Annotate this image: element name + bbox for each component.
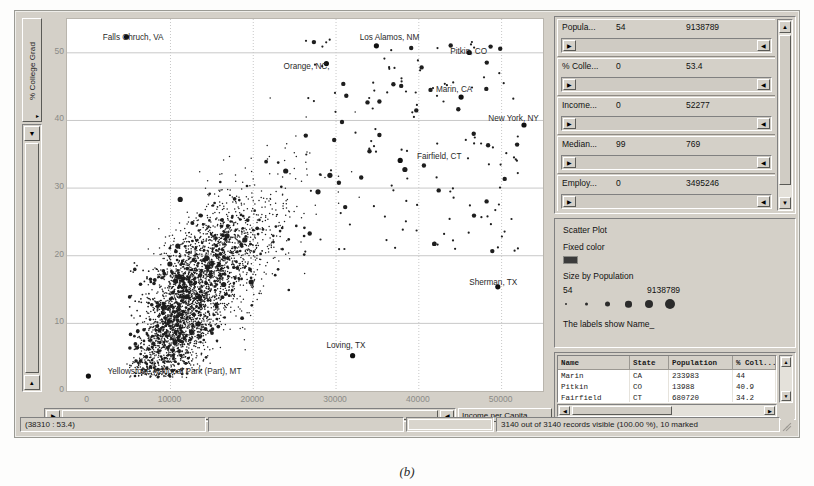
filters-scrollbar[interactable]: ▲ ▼ <box>777 19 793 211</box>
filter-range-slider[interactable]: ▶◀ <box>561 194 772 209</box>
table-cell: Fairfield <box>558 392 629 403</box>
plot-canvas[interactable]: Falls Chruch, VALos Alamos, NMPitkin, CO… <box>66 18 544 392</box>
filter-handle-left-icon[interactable]: ▶ <box>563 118 576 129</box>
table-row[interactable]: MarinCA23398344 <box>558 370 776 382</box>
table-cell: Marin <box>558 370 629 382</box>
legend-title: Scatter Plot <box>563 225 607 235</box>
table-row[interactable]: PitkinCO1398840.9 <box>558 381 776 392</box>
scatter-svg[interactable]: Falls Chruch, VALos Alamos, NMPitkin, CO… <box>67 19 543 391</box>
legend-color-swatch[interactable] <box>563 256 578 264</box>
table-column-header[interactable]: % Coll... <box>733 356 776 370</box>
point-label: Marin, CA <box>436 85 473 94</box>
legend-panel: Scatter Plot Fixed color Size by Populat… <box>554 218 796 348</box>
point-label: Los Alamos, NM <box>360 33 420 42</box>
legend-size-ramp <box>565 297 695 311</box>
table-row[interactable]: FairfieldCT68072034.2 <box>558 392 776 403</box>
filter-handle-right-icon[interactable]: ◀ <box>757 79 770 90</box>
filter-row[interactable]: Employ...03495246▶◀ <box>557 175 775 211</box>
filters-scroll-thumb[interactable] <box>779 35 791 185</box>
status-coordinates: (38310 : 53.4) <box>20 417 206 432</box>
x-axis-tick-labels: 01000020000300004000050000 <box>66 394 544 407</box>
filter-name: Popula... <box>562 22 596 32</box>
x-tick-label: 20000 <box>240 394 264 404</box>
y-tick-label: 10 <box>44 316 64 326</box>
table-cell: CA <box>629 370 668 382</box>
point-label: New York, NY <box>488 114 539 123</box>
filter-range-slider[interactable]: ▶◀ <box>561 77 772 92</box>
details-table-panel: NameStatePopulation% Coll... MarinCA2339… <box>554 352 796 420</box>
table-horizontal-scrollbar[interactable]: ◀ ▶ <box>557 404 777 417</box>
legend-size-min: 54 <box>563 285 572 295</box>
table-body: MarinCA23398344PitkinCO1398840.9Fairfiel… <box>558 370 776 404</box>
resize-grip-icon[interactable] <box>781 417 794 432</box>
table-hscroll-thumb[interactable] <box>572 406 672 415</box>
legend-size-dot <box>665 299 675 309</box>
y-axis-scrollbar[interactable]: ▼ ▴ <box>22 124 42 392</box>
filter-min-value: 0 <box>616 100 621 110</box>
y-axis-label: % College Grad <box>23 19 43 123</box>
progress-fill <box>408 419 492 430</box>
filter-handle-right-icon[interactable]: ◀ <box>757 196 770 207</box>
legend-size-dot <box>645 300 653 308</box>
y-scroll-down-icon[interactable]: ▼ <box>24 126 40 141</box>
filter-row[interactable]: Popula...549138789▶◀ <box>557 19 775 57</box>
filter-row[interactable]: Median...99769▶◀ <box>557 136 775 174</box>
table-scroll-up-icon[interactable]: ▲ <box>781 357 791 367</box>
filter-handle-left-icon[interactable]: ▶ <box>563 157 576 168</box>
application-client-area: % College Grad ▸ ▼ ▴ 01020304050 Falls C… <box>18 14 796 434</box>
filters-scroll-down-icon[interactable]: ▼ <box>779 197 791 209</box>
table-scroll-down-icon[interactable]: ▼ <box>781 391 791 401</box>
filter-name: Income... <box>562 100 597 110</box>
y-scroll-thumb[interactable] <box>25 143 39 373</box>
y-axis-expand-icon[interactable]: ▸ <box>36 113 39 119</box>
table-cell: 13988 <box>668 381 732 392</box>
point-label: Pitkin, CO <box>450 47 487 56</box>
filter-handle-right-icon[interactable]: ◀ <box>757 118 770 129</box>
filter-max-value: 9138789 <box>686 22 719 32</box>
scatter-plot-area: % College Grad ▸ ▼ ▴ 01020304050 Falls C… <box>20 16 550 420</box>
status-blank-cell <box>208 417 404 432</box>
x-tick-label: 50000 <box>489 394 513 404</box>
y-tick-label: 20 <box>44 249 64 259</box>
y-tick-label: 40 <box>44 113 64 123</box>
filter-handle-right-icon[interactable]: ◀ <box>757 40 770 51</box>
y-tick-label: 30 <box>44 181 64 191</box>
filter-handle-right-icon[interactable]: ◀ <box>757 157 770 168</box>
table-column-header[interactable]: State <box>629 356 668 370</box>
point-label: Fairfield, CT <box>417 152 462 161</box>
y-axis-column-selector[interactable]: % College Grad ▸ <box>22 18 42 122</box>
table-scroll-right-icon[interactable]: ▶ <box>764 406 775 415</box>
filters-panel: Popula...549138789▶◀% Colle...053.4▶◀Inc… <box>554 16 796 214</box>
point-label: Sherman, TX <box>469 278 518 287</box>
table-cell: CO <box>629 381 668 392</box>
y-scroll-up-icon[interactable]: ▴ <box>24 375 40 390</box>
table-column-header[interactable]: Population <box>668 356 732 370</box>
filter-name: Median... <box>562 139 597 149</box>
filter-handle-left-icon[interactable]: ▶ <box>563 196 576 207</box>
legend-size-dot <box>625 301 632 308</box>
point-label: Orange, NC, <box>284 62 330 71</box>
legend-size-max: 9138789 <box>647 285 680 295</box>
filter-handle-left-icon[interactable]: ▶ <box>563 79 576 90</box>
filter-range-slider[interactable]: ▶◀ <box>561 155 772 170</box>
filter-row[interactable]: Income...052277▶◀ <box>557 97 775 135</box>
gridlines <box>67 19 543 391</box>
filter-row[interactable]: % Colle...053.4▶◀ <box>557 58 775 96</box>
table-vertical-scrollbar[interactable]: ▲ ▼ <box>779 355 793 403</box>
filter-handle-left-icon[interactable]: ▶ <box>563 40 576 51</box>
point-label: Yellowstone National Park (Part), MT <box>108 367 242 376</box>
figure-page: % College Grad ▸ ▼ ▴ 01020304050 Falls C… <box>0 0 814 486</box>
filters-scroll-up-icon[interactable]: ▲ <box>779 21 791 33</box>
table-cell: 233983 <box>668 370 732 382</box>
status-progress <box>406 417 494 432</box>
filter-range-slider[interactable]: ▶◀ <box>561 116 772 131</box>
details-table-viewport[interactable]: NameStatePopulation% Coll... MarinCA2339… <box>557 355 777 403</box>
filter-range-slider[interactable]: ▶◀ <box>561 38 772 53</box>
table-scroll-left-icon[interactable]: ◀ <box>559 406 570 415</box>
filter-min-value: 54 <box>616 22 625 32</box>
details-table: NameStatePopulation% Coll... MarinCA2339… <box>558 356 776 403</box>
legend-size-dot <box>585 303 588 306</box>
table-column-header[interactable]: Name <box>558 356 629 370</box>
table-cell: CT <box>629 392 668 403</box>
table-cell: 680720 <box>668 392 732 403</box>
